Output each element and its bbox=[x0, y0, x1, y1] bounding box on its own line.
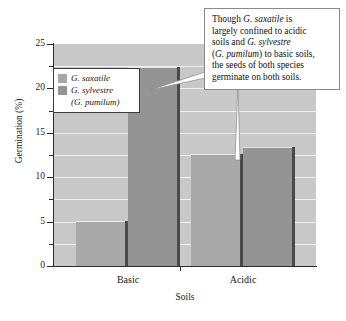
callout-box: Though G. saxatile is largely confined t… bbox=[204, 8, 340, 90]
y-tick-15 bbox=[47, 133, 53, 134]
bar-right-edge bbox=[177, 67, 180, 266]
y-tick-7-5 bbox=[49, 199, 53, 200]
callout-line-6: germinate on both soils. bbox=[212, 72, 333, 84]
legend-label-g-saxatile: G. saxatile bbox=[71, 73, 110, 84]
bar-top-edge bbox=[191, 154, 243, 155]
bar-basic-g-saxatile bbox=[76, 221, 128, 266]
y-tick-2-5 bbox=[49, 244, 53, 245]
x-tick-label-acidic: Acidic bbox=[203, 274, 283, 285]
legend-entry-g-saxatile: G. saxatile bbox=[58, 73, 135, 84]
figure: 25 20 15 10 5 0 Basic Acidic Soils Germi… bbox=[0, 0, 346, 321]
y-tick-5 bbox=[47, 222, 53, 223]
callout-l3b: G. sylvestre bbox=[247, 37, 291, 47]
bar-top-edge bbox=[243, 147, 295, 148]
bar-face bbox=[191, 154, 243, 266]
callout-line-3: soils and G. sylvestre bbox=[212, 37, 333, 49]
callout-l1a: Though bbox=[212, 14, 243, 24]
bar-acidic-g-sylvestre bbox=[243, 147, 295, 266]
x-axis-line bbox=[53, 266, 317, 267]
callout-l4b: G. pumilum bbox=[215, 49, 259, 59]
legend-entry-g-sylvestre: G. sylvestre bbox=[58, 85, 135, 96]
bar-right-edge bbox=[292, 147, 295, 266]
legend-swatch-icon-g-sylvestre bbox=[58, 86, 67, 95]
callout-line-2: largely confined to acidic bbox=[212, 26, 333, 38]
y-tick-label-5: 5 bbox=[15, 217, 45, 227]
legend: G. saxatile G. sylvestre (G. pumilum) bbox=[53, 68, 140, 113]
y-tick-label-0: 0 bbox=[15, 261, 45, 271]
bar-top-edge bbox=[76, 221, 128, 222]
x-axis-title: Soils bbox=[54, 292, 316, 302]
x-tick-divider bbox=[180, 266, 181, 271]
legend-label-g-sylvestre: G. sylvestre bbox=[71, 85, 113, 96]
callout-line-1: Though G. saxatile is bbox=[212, 14, 333, 26]
x-tick-label-basic: Basic bbox=[88, 274, 168, 285]
callout-line-4: (G. pumilum) to basic soils, bbox=[212, 49, 333, 61]
bar-acidic-g-saxatile bbox=[191, 154, 243, 266]
bar-face bbox=[76, 221, 128, 266]
callout-l4c: ) to basic soils, bbox=[259, 49, 315, 59]
legend-sublabel-g-pumilum: (G. pumilum) bbox=[71, 97, 135, 108]
callout-l3a: soils and bbox=[212, 37, 247, 47]
bar-face bbox=[243, 147, 295, 266]
gridline-15 bbox=[54, 133, 316, 134]
y-tick-12-5 bbox=[49, 155, 53, 156]
y-tick-10 bbox=[47, 177, 53, 178]
y-tick-25 bbox=[47, 44, 53, 45]
legend-swatch-icon-g-saxatile bbox=[58, 74, 67, 83]
y-axis-title: Germination (%) bbox=[14, 66, 24, 196]
callout-l1c: is bbox=[284, 14, 293, 24]
y-tick-label-25: 25 bbox=[15, 39, 45, 49]
y-tick-0 bbox=[47, 266, 53, 267]
callout-l1b: G. saxatile bbox=[243, 14, 283, 24]
callout-line-5: the seeds of both species bbox=[212, 60, 333, 72]
